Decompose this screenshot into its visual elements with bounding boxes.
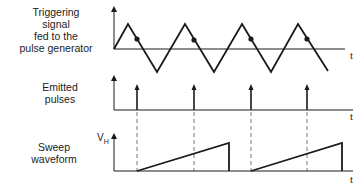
trigger-point: [191, 37, 196, 42]
timing-diagram: t t VH t: [0, 0, 362, 188]
sawtooth-ramp: [251, 143, 342, 171]
sweep-axis-label: VH: [97, 132, 109, 145]
arrow-up-icon: [249, 84, 254, 90]
trigger-point: [248, 36, 253, 41]
arrow-up-icon: [111, 133, 117, 139]
arrow-up-icon: [111, 6, 117, 12]
sawtooth-ramp: [137, 143, 229, 171]
trigger-point: [304, 36, 309, 41]
time-axis-label: t: [350, 110, 353, 122]
trigger-point: [134, 36, 139, 41]
arrow-up-icon: [305, 84, 310, 90]
time-axis-label: t: [350, 173, 353, 185]
trigger-signal-plot: t: [111, 6, 353, 72]
arrow-up-icon: [111, 75, 117, 81]
time-axis-label: t: [350, 49, 353, 61]
arrow-up-icon: [192, 84, 197, 90]
emitted-pulses-plot: t: [111, 75, 353, 122]
triangle-wave: [114, 24, 328, 72]
sweep-waveform-plot: VH t: [97, 132, 353, 185]
arrow-up-icon: [135, 84, 140, 90]
